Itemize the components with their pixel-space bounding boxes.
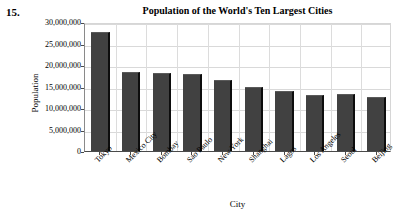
y-tick-mark xyxy=(81,109,84,110)
y-tick-mark xyxy=(81,88,84,89)
y-tick-mark xyxy=(81,152,84,153)
bar-beijing xyxy=(367,97,385,151)
bar-new-york xyxy=(214,80,232,151)
bar-series xyxy=(85,24,390,151)
plot-area xyxy=(84,23,391,152)
y-axis-title-wrap: Population xyxy=(8,20,28,155)
bar-chart-figure: 15. Population of the World's Ten Larges… xyxy=(0,0,411,222)
x-axis-title: City xyxy=(84,199,391,209)
y-tick-mark xyxy=(81,66,84,67)
bar-sao-paulo xyxy=(183,74,201,151)
bar-tokyo xyxy=(91,32,109,151)
y-tick-label: 30,000,000 xyxy=(45,19,81,27)
y-tick-mark xyxy=(81,131,84,132)
y-tick-label: 25,000,000 xyxy=(45,41,81,49)
y-axis-title: Population xyxy=(30,63,40,123)
y-tick-label: 10,000,000 xyxy=(45,105,81,113)
y-tick-label: 5,000,000 xyxy=(49,127,81,135)
bar-shanghai xyxy=(245,87,263,151)
bar-seoul xyxy=(337,94,355,151)
y-tick-label: 15,000,000 xyxy=(45,84,81,92)
bar-lagos xyxy=(275,91,293,151)
y-tick-label: 20,000,000 xyxy=(45,62,81,70)
chart-title: Population of the World's Ten Largest Ci… xyxy=(84,5,391,16)
problem-number: 15. xyxy=(6,6,20,18)
y-tick-mark xyxy=(81,45,84,46)
bar-mexico-city xyxy=(122,72,140,151)
y-tick-mark xyxy=(81,23,84,24)
